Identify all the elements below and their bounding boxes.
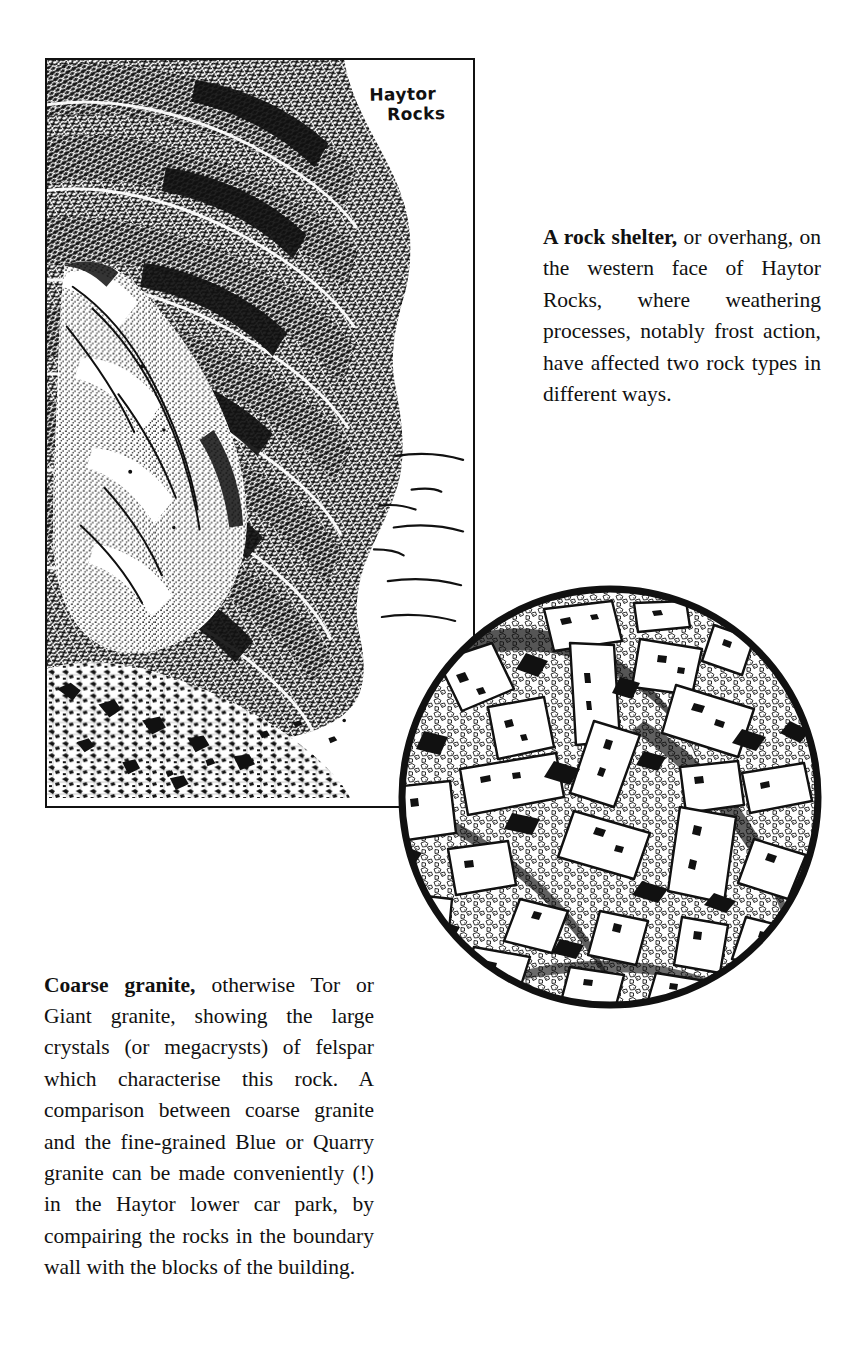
haytor-rocks-hand-label: Haytor Rocks (339, 83, 468, 126)
document-page: Haytor Rocks (0, 0, 868, 1372)
thin-section-drawing (394, 581, 826, 1013)
hand-label-line-2: Rocks (339, 103, 467, 126)
caption-coarse-granite-lead: Coarse granite, (44, 973, 195, 997)
caption-rock-shelter: A rock shelter, or overhang, on the west… (543, 222, 821, 411)
caption-rock-shelter-lead: A rock shelter, (543, 225, 677, 249)
caption-coarse-granite-body: otherwise Tor or Giant granite, showing … (44, 973, 374, 1280)
coarse-granite-thin-section-illustration (394, 581, 826, 1013)
caption-rock-shelter-body: or overhang, on the western face of Hayt… (543, 225, 821, 407)
hand-label-line-1: Haytor (369, 83, 436, 104)
caption-coarse-granite: Coarse granite, otherwise Tor or Giant g… (44, 970, 374, 1284)
